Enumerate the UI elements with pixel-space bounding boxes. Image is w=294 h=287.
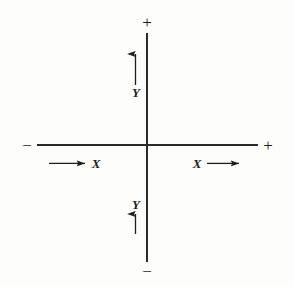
- sign-plus-right: +: [263, 137, 273, 154]
- sign-minus-bottom: −: [142, 263, 152, 280]
- diagram-canvas: Y Y X X + − − +: [0, 0, 294, 287]
- axis-label-y-positive: Y: [132, 86, 140, 99]
- axis-lines: [37, 33, 258, 262]
- sign-plus-top: +: [142, 14, 152, 31]
- axis-label-y-negative: Y: [132, 198, 140, 211]
- axis-label-x-positive: X: [193, 157, 202, 170]
- axes-drawing: [0, 0, 294, 287]
- direction-arrows: [49, 54, 239, 234]
- axis-label-x-negative: X: [92, 157, 101, 170]
- sign-minus-left: −: [22, 137, 32, 154]
